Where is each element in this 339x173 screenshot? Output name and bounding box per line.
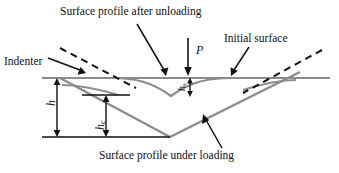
symbol-contact-depth-hc: hc [94, 120, 108, 130]
label-indenter: Indenter [4, 56, 42, 68]
leader-indenter [48, 58, 86, 75]
symbol-sink-in-depth-hs: hs [177, 83, 188, 91]
label-surface-after-unloading: Surface profile after unloading [60, 6, 201, 18]
symbol-load-p: P [196, 44, 203, 56]
leader-surface-under-loading [202, 114, 222, 148]
symbol-contact-depth-subscript: c [98, 120, 107, 124]
label-initial-surface: Initial surface [224, 33, 288, 45]
dimension-arrow-h [54, 78, 61, 137]
symbol-total-depth-h: h [45, 100, 57, 106]
surface-after-unloading-profile [112, 78, 232, 96]
indenter-flank-left [60, 48, 136, 88]
symbol-contact-depth-base: h [93, 124, 107, 130]
diagram-canvas [0, 0, 339, 173]
symbol-sink-in-subscript: s [180, 83, 187, 86]
dimension-arrow-hc [103, 95, 110, 137]
indenter-flank-right [243, 50, 322, 93]
symbol-sink-in-base: h [176, 86, 187, 91]
indentation-diagram-figure: Surface profile after unloading Initial … [0, 0, 339, 173]
load-arrow-p [184, 38, 192, 76]
leader-surface-after-unloading [137, 24, 168, 76]
label-surface-under-loading: Surface profile under loading [99, 150, 234, 162]
leader-initial-surface [231, 47, 249, 76]
dimension-arrow-hs [187, 78, 193, 98]
